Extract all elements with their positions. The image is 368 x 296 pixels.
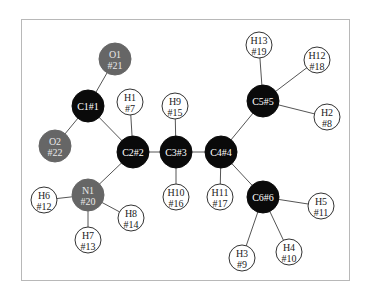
atom-label: O1 [109, 49, 121, 60]
atom-label: C4#4 [210, 147, 232, 158]
atom-label: H13 [250, 35, 267, 46]
atom-node-c6: C6#6 [247, 181, 279, 213]
atom-label: H8 [125, 208, 137, 219]
atom-node-c4: C4#4 [205, 136, 237, 168]
atom-node-h1: H1#7 [117, 89, 143, 115]
atom-node-h9: H9#15 [162, 93, 188, 119]
atom-label: #18 [310, 61, 325, 72]
atom-label: H2 [321, 107, 333, 118]
atom-node-h6: H6#12 [31, 187, 57, 213]
atom-node-h13: H13#19 [246, 32, 272, 58]
atom-node-h7: H7#13 [75, 227, 101, 253]
atom-label: #12 [37, 201, 52, 212]
atom-node-c1: C1#1 [72, 90, 104, 122]
atom-label: C3#3 [165, 147, 187, 158]
atom-label: H6 [38, 190, 50, 201]
atom-node-h10: H10#16 [163, 184, 189, 210]
atom-label: #11 [314, 207, 329, 218]
atom-node-o1: O1#21 [99, 43, 131, 75]
atom-label: #13 [81, 241, 96, 252]
atom-label: #10 [282, 253, 297, 264]
atom-label: H3 [236, 248, 248, 259]
atom-label: N1 [82, 185, 94, 196]
atom-label: H12 [308, 50, 325, 61]
molecule-diagram: C1#1C2#2C3#3C4#4C5#5C6#6O1#21O2#22N1#20H… [0, 0, 368, 296]
atom-label: H7 [82, 230, 94, 241]
atom-node-h12: H12#18 [304, 47, 330, 73]
atom-label: #19 [252, 46, 267, 57]
atom-label: H11 [212, 187, 229, 198]
atom-label: #9 [237, 259, 247, 270]
atom-label: O2 [49, 136, 61, 147]
atom-node-n1: N1#20 [72, 179, 104, 211]
atom-label: #22 [48, 147, 63, 158]
atom-node-h2: H2#8 [314, 104, 340, 130]
atom-label: H1 [124, 92, 136, 103]
atom-label: H10 [167, 187, 184, 198]
atom-node-c2: C2#2 [117, 136, 149, 168]
atom-label: C6#6 [252, 192, 274, 203]
atom-label: H9 [169, 96, 181, 107]
atom-label: C2#2 [122, 147, 144, 158]
atom-label: #16 [169, 198, 184, 209]
atom-label: H5 [315, 196, 327, 207]
atom-node-h11: H11#17 [207, 184, 233, 210]
atoms-layer: C1#1C2#2C3#3C4#4C5#5C6#6O1#21O2#22N1#20H… [31, 32, 340, 271]
atom-label: #21 [108, 60, 123, 71]
atom-node-o2: O2#22 [39, 130, 71, 162]
atom-node-h5: H5#11 [308, 193, 334, 219]
atom-label: #14 [124, 219, 139, 230]
atom-label: C5#5 [252, 96, 274, 107]
atom-node-c5: C5#5 [247, 85, 279, 117]
atom-node-c3: C3#3 [160, 136, 192, 168]
atom-label: #8 [322, 118, 332, 129]
atom-label: #15 [168, 107, 183, 118]
atom-label: #17 [213, 198, 228, 209]
atom-node-h3: H3#9 [229, 245, 255, 271]
atom-label: H4 [283, 242, 295, 253]
atom-label: #20 [81, 196, 96, 207]
atom-node-h8: H8#14 [118, 205, 144, 231]
atom-label: #7 [125, 103, 135, 114]
atom-label: C1#1 [77, 101, 99, 112]
atom-node-h4: H4#10 [276, 239, 302, 265]
